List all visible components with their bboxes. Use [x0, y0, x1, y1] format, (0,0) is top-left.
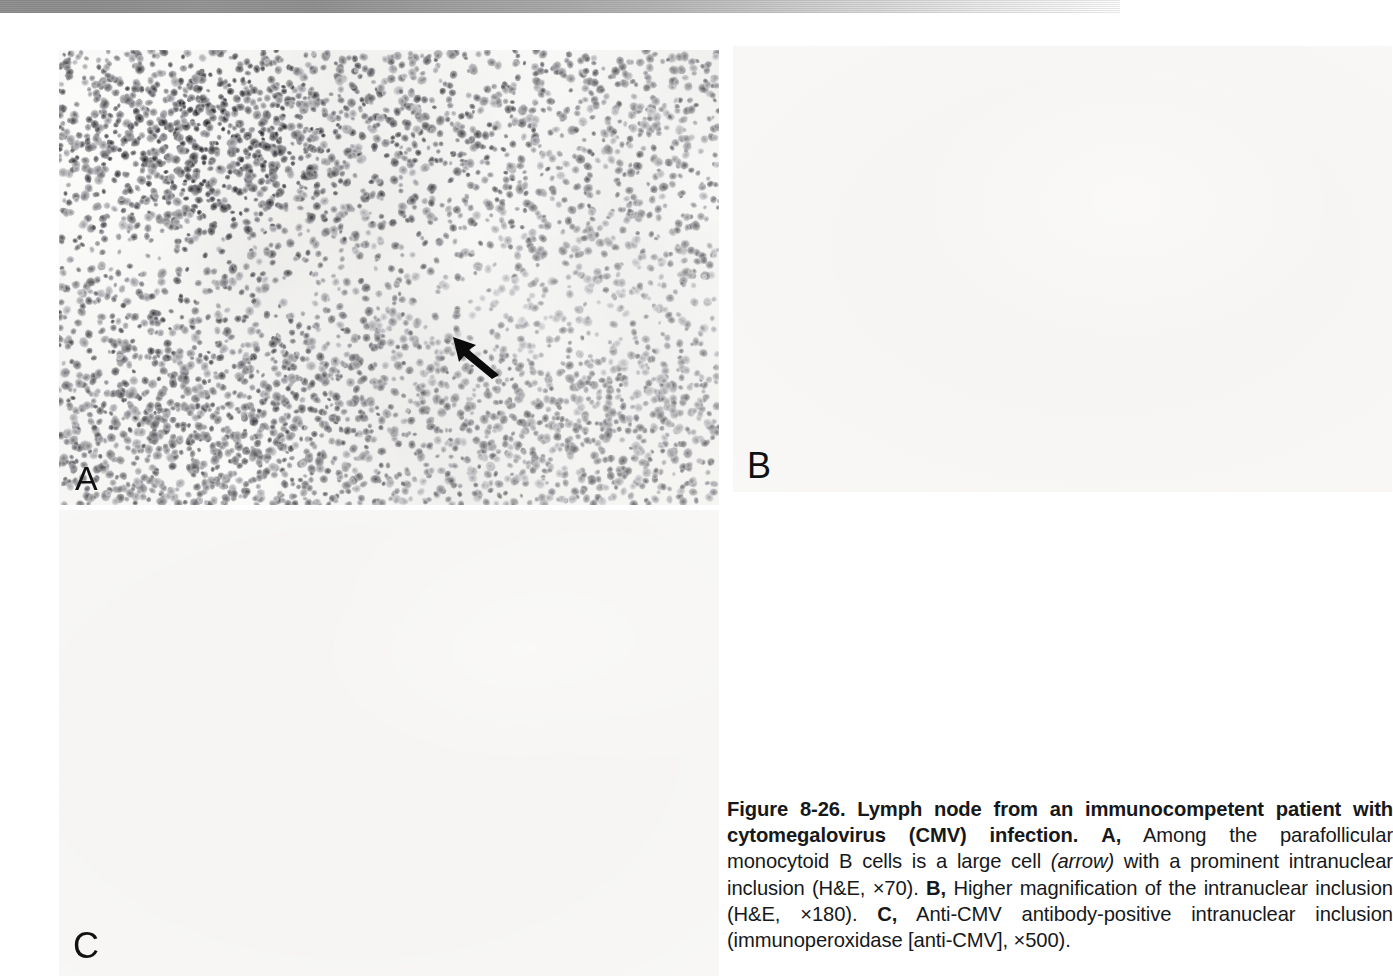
micrograph-panel-c: C	[59, 510, 719, 976]
micrograph-panel-a: A	[59, 50, 719, 505]
caption-marker-a: A,	[1101, 824, 1121, 846]
panel-label-a: A	[75, 461, 98, 495]
panel-a-histology-image	[59, 50, 719, 505]
panel-b-histology-image	[733, 46, 1392, 492]
figure-caption: Figure 8-26. Lymph node from an immunoco…	[727, 796, 1393, 953]
panel-c-histology-image	[59, 510, 719, 976]
caption-marker-b: B,	[926, 877, 946, 899]
caption-marker-c: C,	[877, 903, 897, 925]
caption-arrow-emphasis: (arrow)	[1051, 850, 1114, 872]
scanner-edge-artifact	[0, 0, 1120, 13]
caption-figure-number: Figure 8-26.	[727, 798, 845, 820]
micrograph-panel-b: B	[733, 46, 1392, 492]
panel-label-c: C	[73, 928, 99, 964]
panel-label-b: B	[747, 448, 771, 484]
